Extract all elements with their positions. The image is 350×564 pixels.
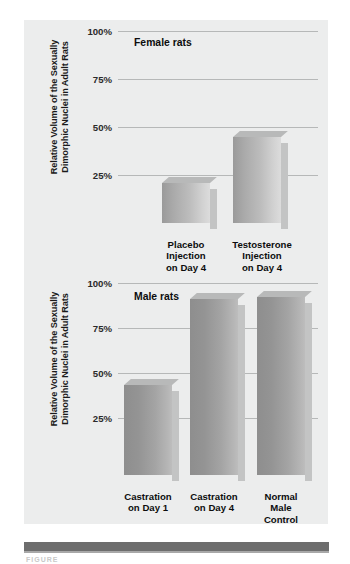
- chart-female-rats: Relative Volume of the Sexually Dimorphi…: [24, 20, 328, 272]
- bar-side-face: [210, 189, 217, 229]
- y-tick-75-male: 75%: [93, 323, 112, 334]
- y-tick-25-female: 25%: [93, 170, 112, 181]
- bar-side-face: [238, 305, 245, 481]
- x-label-testosterone-injection-day4: Testosterone Injection on Day 4: [210, 239, 314, 273]
- gridline-75-female: 75%: [118, 79, 318, 80]
- gridline-25-female: 25%: [118, 175, 318, 176]
- bar-placebo-injection-day4[interactable]: [162, 183, 210, 223]
- y-tick-50-male: 50%: [93, 368, 112, 379]
- y-axis-title-male: Relative Volume of the Sexually Dimorphi…: [49, 263, 79, 455]
- bar-top-face: [233, 131, 288, 137]
- plot-area-female: 100% 75% 50% 25% Female rats Placebo Inj…: [118, 31, 318, 223]
- y-axis-title-female: Relative Volume of the Sexually Dimorphi…: [49, 11, 79, 203]
- y-tick-50-female: 50%: [93, 122, 112, 133]
- chart-title-male: Male rats: [134, 291, 179, 302]
- figure-bottom-rule: [24, 542, 329, 551]
- bar-castration-day4[interactable]: [190, 299, 238, 475]
- bar-top-face: [162, 177, 217, 183]
- bar-top-face: [257, 291, 312, 297]
- bar-testosterone-injection-day4[interactable]: [233, 137, 281, 223]
- chart-title-female: Female rats: [134, 37, 192, 48]
- gridline-100-male: 100%: [118, 283, 318, 284]
- plot-area-male: 100% 75% 50% 25% Male rats: [118, 283, 318, 475]
- figure-panel: Relative Volume of the Sexually Dimorphi…: [24, 20, 328, 524]
- y-tick-100-female: 100%: [87, 26, 112, 37]
- bar-top-face: [124, 379, 179, 385]
- y-tick-100-male: 100%: [87, 278, 112, 289]
- bar-side-face: [281, 143, 288, 229]
- bar-normal-male-control[interactable]: [257, 297, 305, 475]
- bar-castration-day1[interactable]: [124, 385, 172, 475]
- x-label-normal-male-control: Normal Male Control: [246, 491, 316, 525]
- bar-top-face: [190, 293, 245, 299]
- x-label-castration-day4: Castration on Day 4: [174, 491, 254, 514]
- y-tick-25-male: 25%: [93, 413, 112, 424]
- y-tick-75-female: 75%: [93, 74, 112, 85]
- figure-caption: FIGURE: [26, 556, 58, 563]
- bar-side-face: [172, 391, 179, 481]
- gridline-100-female: 100%: [118, 31, 318, 32]
- bar-side-face: [305, 303, 312, 481]
- gridline-50-female: 50%: [118, 127, 318, 128]
- chart-male-rats: Relative Volume of the Sexually Dimorphi…: [24, 272, 328, 524]
